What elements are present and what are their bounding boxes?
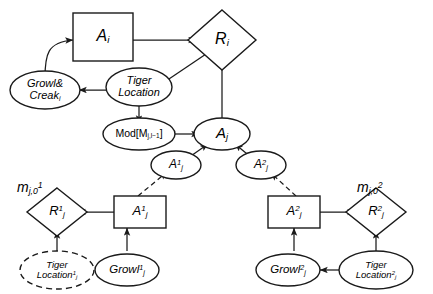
- node-label-mod: Mod[Mj,l−1]: [104, 124, 174, 144]
- node-label-ajprime1: A1j: [151, 155, 201, 175]
- node-label-ri: Ri: [192, 26, 252, 54]
- node-label-tigerlocation: Tiger Location: [106, 73, 172, 101]
- node-label-aj: Aj: [194, 123, 250, 145]
- node-label-a1j: A1j: [114, 196, 166, 228]
- node-label-tigerlocation2: Tiger Location2j: [341, 257, 411, 283]
- node-label-ajprime2: A2j: [236, 155, 286, 175]
- node-label-tigerlocation1: Tiger Location1j: [22, 257, 92, 283]
- node-label-r1j: R1j: [32, 201, 82, 223]
- model-label-2: mj,02: [357, 179, 383, 196]
- node-label-growl1j: Growl1j: [97, 260, 157, 280]
- influence-diagram-canvas: Ai Ri Growl& Creaki Tiger Location Mod[M…: [0, 0, 433, 294]
- node-label-growlcreak: Growl& Creaki: [12, 76, 78, 104]
- node-label-r2j: R2j: [351, 201, 401, 223]
- model-label-1: mj,01: [17, 179, 43, 196]
- node-label-ai: Ai: [73, 13, 133, 61]
- node-label-a2j: A2j: [268, 196, 320, 228]
- node-label-growl2j: Growl2j: [258, 260, 318, 280]
